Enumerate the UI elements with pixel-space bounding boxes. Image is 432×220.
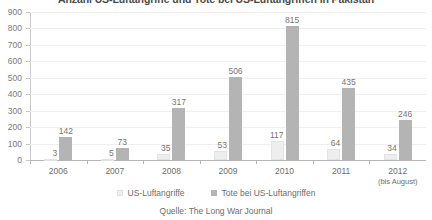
- y-axis-tick-label: 0: [0, 156, 22, 165]
- bar-tote-bei-us-luftangriffen: [399, 120, 412, 160]
- bar-value-label: 53: [205, 141, 227, 150]
- bar-us-luftangriffe: [214, 151, 227, 160]
- chart-legend: US-LuftangriffeTote bei US-Luftangriffen: [0, 188, 432, 198]
- y-axis-tick: [26, 144, 30, 145]
- gridline: [30, 127, 426, 128]
- y-axis-tick: [26, 61, 30, 62]
- gridline: [30, 111, 426, 112]
- x-axis-category-label: 2011: [313, 166, 370, 177]
- plot-area: [30, 12, 426, 160]
- bar-tote-bei-us-luftangriffen: [59, 137, 72, 160]
- x-axis-category-label: 2009: [200, 166, 257, 177]
- source-note: Quelle: The Long War Journal: [0, 206, 432, 216]
- x-axis-category-label: 2006: [30, 166, 87, 177]
- bar-value-label: 73: [108, 138, 137, 147]
- bar-us-luftangriffe: [384, 154, 397, 160]
- bar-us-luftangriffe: [157, 154, 170, 160]
- y-axis-tick: [26, 78, 30, 79]
- bar-tote-bei-us-luftangriffen: [342, 88, 355, 160]
- bar-tote-bei-us-luftangriffen: [229, 77, 242, 160]
- x-axis-tick: [143, 161, 144, 164]
- x-axis-category-label: 2008: [143, 166, 200, 177]
- bar-value-label: 117: [262, 131, 284, 140]
- x-axis-category-label: 2007: [87, 166, 144, 177]
- y-axis-tick-label: 300: [0, 107, 22, 116]
- legend-swatch-icon: [117, 190, 123, 196]
- gridline: [30, 78, 426, 79]
- bar-value-label: 3: [35, 149, 57, 158]
- bar-tote-bei-us-luftangriffen: [172, 108, 185, 160]
- bar-value-label: 246: [391, 110, 420, 119]
- bar-value-label: 435: [334, 78, 363, 87]
- legend-item[interactable]: Tote bei US-Luftangriffen: [211, 188, 316, 198]
- gridline: [30, 94, 426, 95]
- bar-value-label: 5: [92, 149, 114, 158]
- legend-item[interactable]: US-Luftangriffe: [117, 188, 185, 198]
- bar-value-label: 142: [51, 127, 80, 136]
- y-axis-tick-label: 500: [0, 74, 22, 83]
- bar-value-label: 34: [375, 144, 397, 153]
- gridline: [30, 12, 426, 13]
- bar-value-label: 317: [164, 98, 193, 107]
- y-axis-tick-label: 700: [0, 41, 22, 50]
- y-axis-tick: [26, 45, 30, 46]
- y-axis-tick: [26, 127, 30, 128]
- gridline: [30, 28, 426, 29]
- bar-us-luftangriffe: [44, 159, 57, 161]
- bar-tote-bei-us-luftangriffen: [116, 148, 129, 160]
- gridline: [30, 144, 426, 145]
- y-axis-tick: [26, 12, 30, 13]
- y-axis-tick-label: 200: [0, 123, 22, 132]
- legend-label: US-Luftangriffe: [128, 188, 185, 198]
- bar-us-luftangriffe: [271, 141, 284, 160]
- bar-chart: Anzahl US-Luftangriffe und Tote bei US-L…: [0, 0, 432, 220]
- gridline: [30, 45, 426, 46]
- x-axis-category-label: 2010: [256, 166, 313, 177]
- x-axis-tick: [256, 161, 257, 164]
- bar-us-luftangriffe: [101, 159, 114, 161]
- bar-value-label: 35: [148, 144, 170, 153]
- y-axis-tick: [26, 94, 30, 95]
- x-axis-tick: [30, 161, 31, 164]
- gridline: [30, 61, 426, 62]
- x-axis-tick: [313, 161, 314, 164]
- bar-value-label: 815: [278, 16, 307, 25]
- y-axis-tick-label: 100: [0, 140, 22, 149]
- y-axis-tick-label: 900: [0, 8, 22, 17]
- x-axis-tick: [87, 161, 88, 164]
- bar-value-label: 506: [221, 67, 250, 76]
- bar-tote-bei-us-luftangriffen: [286, 26, 299, 160]
- y-axis-tick-label: 600: [0, 57, 22, 66]
- x-axis-category-sublabel: (bis August): [369, 177, 426, 186]
- bar-value-label: 64: [318, 139, 340, 148]
- y-axis-tick: [26, 28, 30, 29]
- legend-swatch-icon: [211, 190, 217, 196]
- y-axis-tick-label: 800: [0, 24, 22, 33]
- x-axis-tick: [369, 161, 370, 164]
- y-axis-tick: [26, 111, 30, 112]
- legend-label: Tote bei US-Luftangriffen: [222, 188, 316, 198]
- x-axis-category-label: 2012(bis August): [369, 166, 426, 186]
- x-axis-line: [30, 160, 426, 161]
- chart-title: Anzahl US-Luftangriffe und Tote bei US-L…: [0, 0, 432, 5]
- y-axis-tick-label: 400: [0, 90, 22, 99]
- x-axis-tick: [200, 161, 201, 164]
- bar-us-luftangriffe: [327, 149, 340, 160]
